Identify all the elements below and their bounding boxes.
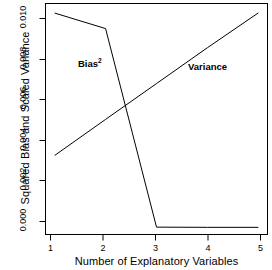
series-line-variance [55, 13, 259, 156]
x-tick-label-3: 4 [200, 243, 216, 253]
x-axis-title: Number of Explanatory Variables [45, 255, 268, 267]
series-annotation-bias-squared: Bias2 [78, 58, 102, 69]
series-annotation-variance: Variance [188, 61, 227, 72]
x-tick-label-4: 5 [253, 243, 269, 253]
bias-label-superscript: 2 [98, 57, 102, 64]
y-axis-title: Squared Bias and Scaled Variance [19, 13, 31, 223]
series-line-bias-squared [55, 13, 259, 227]
y-axis-ticks [40, 19, 46, 222]
plot-box-border [46, 4, 268, 235]
x-tick-label-0: 1 [43, 243, 59, 253]
chart-figure: 0.000 0.002 0.004 0.006 0.008 0.010 1 2 … [0, 0, 272, 270]
x-axis-ticks [51, 235, 261, 241]
plot-area [0, 0, 272, 270]
x-tick-label-2: 3 [148, 243, 164, 253]
bias-label-text: Bias [78, 58, 98, 69]
x-tick-label-1: 2 [95, 243, 111, 253]
